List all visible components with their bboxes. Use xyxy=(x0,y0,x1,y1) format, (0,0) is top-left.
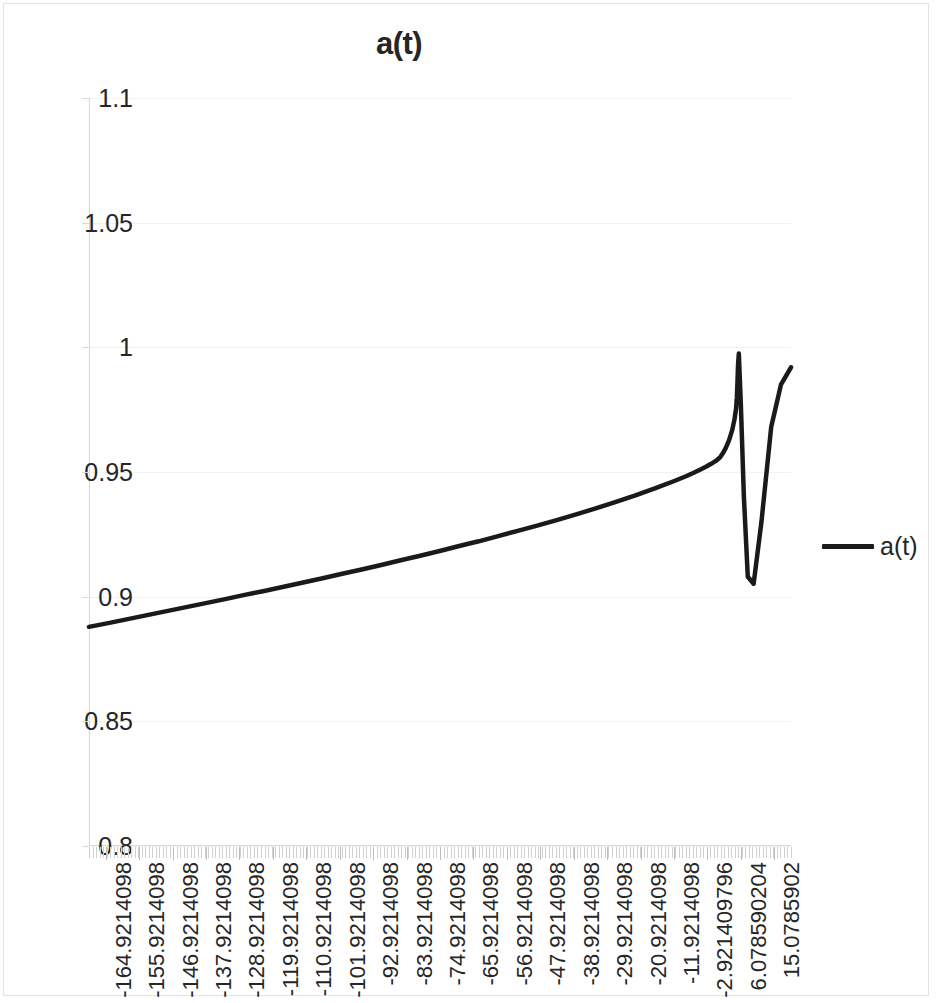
x-axis-tick-mark xyxy=(784,847,785,858)
x-axis-major-tick xyxy=(473,847,474,860)
x-axis-tick-mark xyxy=(250,847,251,858)
x-axis-tick-mark xyxy=(96,847,97,858)
x-axis-tick-mark xyxy=(675,847,676,858)
x-axis-tick-mark xyxy=(770,847,771,858)
x-axis-tick-mark xyxy=(159,847,160,858)
x-axis-tick-mark xyxy=(145,847,146,858)
x-axis-tick-mark xyxy=(394,847,395,858)
x-axis-major-tick xyxy=(707,847,708,860)
x-axis-tick-mark xyxy=(528,847,529,858)
x-axis-tick-mark xyxy=(710,847,711,858)
x-axis-tick-label: -20.9214098 xyxy=(648,862,670,986)
x-axis-tick-mark xyxy=(391,847,392,858)
x-axis-tick-mark xyxy=(644,847,645,858)
x-axis-tick-label: -74.9214098 xyxy=(447,862,469,986)
x-axis-tick-mark xyxy=(208,847,209,858)
x-axis-tick-mark xyxy=(89,847,90,858)
x-axis-tick-mark xyxy=(549,847,550,858)
x-axis-tick-mark xyxy=(647,847,648,858)
x-axis-tick-mark xyxy=(243,847,244,858)
x-axis-tick-mark xyxy=(658,847,659,858)
x-axis-tick-label: -47.9214098 xyxy=(547,862,569,986)
x-axis-tick-mark xyxy=(696,847,697,858)
x-axis-tick-mark xyxy=(679,847,680,858)
y-axis-tick-mark xyxy=(82,721,89,722)
plot-area xyxy=(89,98,791,846)
x-axis-tick-mark xyxy=(198,847,199,858)
x-axis-tick-mark xyxy=(700,847,701,858)
x-axis-tick-mark xyxy=(475,847,476,858)
x-axis-tick-mark xyxy=(236,847,237,858)
x-axis-tick-mark xyxy=(496,847,497,858)
y-axis-tick-mark xyxy=(82,597,89,598)
x-axis-tick-mark xyxy=(377,847,378,858)
x-axis-tick-mark xyxy=(728,847,729,858)
x-axis-tick-mark xyxy=(352,847,353,858)
x-axis-tick-mark xyxy=(594,847,595,858)
x-axis-tick-label: 15.0785902 xyxy=(781,862,803,978)
x-axis-tick-mark xyxy=(731,847,732,858)
x-axis-major-tick xyxy=(340,847,341,860)
x-axis-tick-mark xyxy=(384,847,385,858)
x-axis-major-tick xyxy=(774,847,775,860)
x-axis-tick-mark xyxy=(180,847,181,858)
x-axis-tick-mark xyxy=(545,847,546,858)
x-axis-tick-mark xyxy=(500,847,501,858)
x-axis-tick-mark xyxy=(472,847,473,858)
x-axis-tick-mark xyxy=(265,847,266,858)
x-axis-tick-mark xyxy=(605,847,606,858)
x-axis-tick-mark xyxy=(93,847,94,858)
x-axis-tick-mark xyxy=(787,847,788,858)
x-axis-tick-mark xyxy=(100,847,101,858)
x-axis-tick-mark xyxy=(601,847,602,858)
x-axis-tick-mark xyxy=(749,847,750,858)
x-axis-tick-mark xyxy=(465,847,466,858)
x-axis-tick-mark xyxy=(542,847,543,858)
x-axis-tick-label: -83.9214098 xyxy=(414,862,436,986)
x-axis-tick-mark xyxy=(703,847,704,858)
x-axis-tick-mark xyxy=(479,847,480,858)
y-axis-tick-mark xyxy=(82,98,89,99)
x-axis-tick-mark xyxy=(300,847,301,858)
x-axis-tick-mark xyxy=(570,847,571,858)
chart-frame: a(t) 1.11.0510.950.90.850.8 -164.9214098… xyxy=(3,3,929,996)
x-axis-tick-label: -128.9214098 xyxy=(246,862,268,998)
series-plot xyxy=(89,98,791,846)
legend-line-swatch xyxy=(822,544,874,549)
x-axis-tick-mark xyxy=(103,847,104,858)
x-axis-tick-mark xyxy=(524,847,525,858)
x-axis-labels: -164.9214098-155.9214098-146.9214098-137… xyxy=(89,862,791,1002)
y-axis-tick-label: 1.1 xyxy=(13,84,133,113)
x-axis-major-tick xyxy=(373,847,374,860)
y-axis-tick-mark xyxy=(82,223,89,224)
x-axis-tick-mark xyxy=(303,847,304,858)
x-axis-major-tick xyxy=(139,847,140,860)
x-axis-tick-mark xyxy=(215,847,216,858)
x-axis-tick-mark xyxy=(261,847,262,858)
x-axis-tick-mark xyxy=(493,847,494,858)
x-axis-tick-mark xyxy=(293,847,294,858)
chart-legend: a(t) xyxy=(822,532,918,561)
x-axis-tick-mark xyxy=(759,847,760,858)
x-axis-tick-mark xyxy=(447,847,448,858)
series-line-a-of-t xyxy=(89,354,791,627)
x-axis-tick-label: -2.921409796 xyxy=(714,862,736,998)
x-axis-tick-mark xyxy=(356,847,357,858)
x-axis-major-tick xyxy=(440,847,441,860)
x-axis-tick-mark xyxy=(468,847,469,858)
x-axis-tick-mark xyxy=(535,847,536,858)
x-axis-tick-mark xyxy=(191,847,192,858)
x-axis-tick-mark xyxy=(517,847,518,858)
x-axis-tick-mark xyxy=(580,847,581,858)
x-axis-tick-label: -137.9214098 xyxy=(213,862,235,998)
x-axis-tick-mark xyxy=(222,847,223,858)
x-axis-tick-mark xyxy=(328,847,329,858)
x-axis-tick-label: -146.9214098 xyxy=(180,862,202,998)
x-axis-tick-mark xyxy=(521,847,522,858)
x-axis-tick-mark xyxy=(608,847,609,858)
x-axis-tick-mark xyxy=(531,847,532,858)
x-axis-tick-mark xyxy=(584,847,585,858)
x-axis-major-tick xyxy=(106,847,107,860)
legend-label: a(t) xyxy=(880,532,918,561)
x-axis-tick-label: -164.9214098 xyxy=(113,862,135,998)
